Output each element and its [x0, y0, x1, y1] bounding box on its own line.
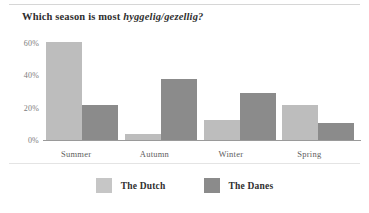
- bar-winter-dutch[interactable]: [204, 120, 240, 140]
- bar-group-autumn: [125, 34, 204, 140]
- bar-groups: [46, 34, 361, 140]
- bar-spring-danes[interactable]: [318, 123, 354, 140]
- legend-label-danes: The Danes: [229, 181, 274, 191]
- y-tick-label: 40%: [24, 71, 39, 80]
- x-tick-label-autumn: Autumn: [125, 149, 204, 169]
- chart-figure: Which season is most hyggelig/gezellig? …: [0, 0, 369, 213]
- legend-swatch-icon-dutch: [96, 178, 112, 193]
- legend-divider: [9, 163, 360, 164]
- legend-item-danes[interactable]: The Danes: [204, 178, 274, 193]
- bar-group-spring: [282, 34, 361, 140]
- legend-item-dutch[interactable]: The Dutch: [96, 178, 166, 193]
- chart-legend: The Dutch The Danes: [0, 178, 369, 193]
- bar-group-summer: [46, 34, 125, 140]
- bar-autumn-dutch[interactable]: [125, 134, 161, 140]
- bar-spring-dutch[interactable]: [282, 105, 318, 140]
- chart-title-plain: Which season is most: [22, 11, 123, 22]
- bar-summer-danes[interactable]: [82, 105, 118, 140]
- legend-swatch-icon-danes: [204, 178, 220, 193]
- y-tick-label: 60%: [24, 38, 39, 47]
- top-divider: [9, 4, 360, 5]
- x-tick-label-summer: Summer: [46, 149, 125, 169]
- bars-canvas: [46, 34, 361, 149]
- bar-winter-danes[interactable]: [240, 93, 276, 140]
- x-axis: Summer Autumn Winter Spring: [46, 149, 361, 169]
- y-tick-label: 20%: [24, 103, 39, 112]
- bar-summer-dutch[interactable]: [46, 42, 82, 140]
- x-tick-label-spring: Spring: [282, 149, 361, 169]
- legend-label-dutch: The Dutch: [121, 181, 166, 191]
- bar-autumn-danes[interactable]: [161, 79, 197, 140]
- plot-area: 60% 40% 20% 0%: [0, 34, 369, 149]
- chart-title: Which season is most hyggelig/gezellig?: [22, 11, 203, 22]
- chart-title-emphasis: hyggelig/gezellig?: [123, 11, 203, 22]
- bar-group-winter: [204, 34, 283, 140]
- y-tick-label: 0%: [28, 136, 39, 145]
- y-axis: 60% 40% 20% 0%: [0, 34, 46, 149]
- x-tick-label-winter: Winter: [204, 149, 283, 169]
